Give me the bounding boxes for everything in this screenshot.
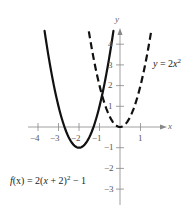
equation-label-dashed: y = 2x2 [153, 58, 181, 69]
y-tick-label: 1 [108, 102, 113, 111]
x-axis [28, 123, 167, 131]
y-tick-label: 4 [108, 40, 113, 49]
y-axis-arrow-icon [118, 28, 123, 35]
y-tick-label: −3 [104, 185, 114, 194]
y-axis-label: y [115, 15, 119, 24]
x-tick-label: 1 [138, 134, 143, 143]
y-tick-label: −2 [104, 164, 114, 173]
y-axis [116, 28, 124, 205]
x-tick-label: −3 [50, 134, 60, 143]
x-tick-label: −4 [30, 134, 40, 143]
x-axis-label: x [168, 122, 172, 131]
y-tick-label: 3 [108, 61, 113, 70]
x-tick-label: −2 [71, 134, 81, 143]
x-axis-arrow-icon [160, 125, 167, 130]
y-tick-label: 2 [108, 81, 113, 90]
x-tick-label: −1 [92, 134, 102, 143]
y-tick-label: −1 [104, 143, 114, 152]
equation-label-solid: f(x) = 2(x + 2)2 − 1 [10, 175, 86, 186]
